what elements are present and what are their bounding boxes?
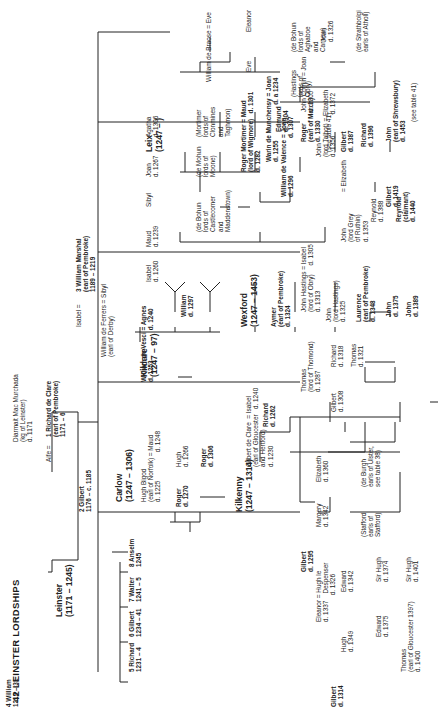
region-wexford: Wexford (1247 – 1453)	[240, 274, 259, 327]
person-hugh-bigod: Hugh Bigod (earl of Norfolk) = Maud d. 1…	[140, 431, 162, 502]
note-de-mohun: (de Mohun lords of Moone)	[195, 146, 217, 177]
person-elizabeth-1360: Elizabeth d. 1360	[315, 456, 329, 482]
person-william-1297: William d. 1297	[180, 295, 194, 317]
person-gilbert-1295: Gilbert d. 1295	[300, 550, 314, 572]
person-john-1375: John d. 1375	[385, 295, 399, 317]
person-laurence: Laurence (earl of Pembroke) d. 1348	[355, 266, 377, 322]
person-aymer: Aymer (earl of Pembroke) d. 1324	[270, 271, 292, 327]
person-john-talbot: John (lord Talbot) = Elizabeth d. 1356 d…	[315, 90, 337, 157]
person-eleanor: Eleanor = Hugh le d. 1337 Despenser d. 1…	[315, 563, 337, 622]
person-sibyl: Sibyl	[145, 193, 152, 207]
person-william-4: 4 William 1219 – 31	[5, 679, 19, 707]
person-hugh-1266: Hugh d. 1266	[175, 446, 189, 467]
person-diarmait: Diarmait Mac Murchada (kg of Leinster) d…	[12, 374, 34, 442]
person-roger-1306: Roger d. 1306	[200, 445, 214, 467]
person-gilbert-1419: Gilbert d. 1419	[385, 185, 399, 207]
person-richard-1262: Richard d. 1262	[262, 403, 276, 427]
person-warin-de-munchensy: Warin de Munchensy = Joan d. 1255 d. a 1…	[265, 76, 279, 162]
person-john-1453: John (earl of Shrewsbury) d. 1453	[385, 80, 407, 142]
person-agatha-1306: Agatha d. 1306	[145, 116, 159, 137]
note-strathbolgi: (de Strathbolgi earls of Atholl)	[355, 10, 369, 52]
person-isabel: Isabel =	[75, 304, 82, 327]
person-gilbert-1387: Gilbert d. 1387	[340, 130, 354, 152]
person-walter-7: 7 Walter 1241 – 5	[128, 577, 142, 602]
genealogy-diagram: 42 LEINSTER LORDSHIPS Leinster (1171 – 1…	[0, 0, 438, 712]
person-gilbert-1314: Gilbert d. 1314	[330, 685, 344, 707]
person-john-grey: John (lord Grey of Ruthin) d. 1353	[340, 214, 369, 242]
person-joan-1326: Joan d. 1326	[320, 21, 334, 42]
person-anselm-8: 8 Anselm 1245	[128, 539, 142, 567]
person-sir-hugh-1374: Sir Hugh d. 1374	[375, 557, 389, 582]
person-william-braose: William de Braose = Eve	[205, 12, 212, 82]
person-richard-5: 5 Richard 1231 – 4	[128, 643, 142, 672]
note-de-burgh: (de Burgh earls of Ulster, see table 38)	[360, 446, 382, 487]
person-thomas-1321: Thomas d. 1321	[350, 344, 364, 367]
person-eve: Eve	[245, 61, 252, 72]
region-carlow: Carlow (1247 – 1306)	[115, 449, 134, 502]
person-hugh-1349: Hugh d. 1349	[340, 631, 354, 652]
person-aife: Aife =	[45, 445, 52, 462]
person-roger-mortimer: Roger Mortimer = Maud (lord of Wigmore) …	[240, 92, 262, 172]
person-margery: Margery d. 1342	[315, 504, 329, 527]
person-john-1325: John (lord Hastings) d. 1325	[325, 280, 347, 322]
note-stafford: (Stafford earls of Stafford)	[360, 513, 382, 537]
region-leinster: Leinster (1171 – 1245)	[55, 565, 74, 617]
person-gilbert-6: 6 Gilbert 1234 – 41	[128, 609, 142, 637]
person-edward-1375: Edward d. 1375	[375, 615, 389, 637]
person-william-vesci: William de Vesci = Agnes d. 1253 d. 1240	[140, 306, 154, 382]
note-de-bohun-castlecomer: (de Bohun lords of Castlecomer and Madde…	[195, 190, 231, 232]
person-richard-1396: Richard d. 1396	[360, 123, 374, 147]
person-elizabeth-grey: = Elizabeth	[340, 160, 347, 192]
person-eleanor-braose: Eleanor	[245, 10, 252, 32]
person-gilbert-2: 2 Gilbert 1176 – c. 1185	[78, 470, 92, 512]
person-reynold-1388: Reynold d. 1388	[370, 199, 384, 222]
person-william-ferrers: William de Ferrers = Sibyl (earl of Derb…	[100, 284, 114, 357]
person-isabel-1260: Isabel d. 1260	[145, 261, 159, 282]
person-sir-hugh-1401: Sir Hugh d. 1401	[405, 557, 419, 582]
person-joan-1267: Joan d. 1267	[145, 156, 159, 177]
person-john-hastings: John Hastings = Isabel (lord of Obry) d.…	[300, 244, 322, 312]
note-mortimer-lords: (Mortimer lords of Clonmines and Taghmon…	[195, 107, 231, 137]
person-edward-1342: Edward d. 1342	[340, 570, 354, 592]
person-gilbert-1308: Gilbert d. 1308	[330, 391, 344, 412]
person-richard-de-clare: 1 Richard de Clare (earl of Pembroke) 11…	[45, 381, 67, 437]
person-roger-1270: Roger d. 1270	[175, 485, 189, 507]
person-thomas-1287: Thomas (lord of Thomond) d. 1287	[300, 341, 322, 392]
region-kilkenny: Kilkenny (1247 – 1314)	[235, 459, 254, 512]
person-richard-1318: Richard d. 1318	[330, 345, 344, 367]
note-see-table-41-b: (see table 41)	[410, 83, 417, 122]
person-john-1389: John d. 1389	[405, 295, 419, 317]
person-thomas-1400: Thomas (earl of Gloucester 1397) d. 1400	[400, 601, 422, 672]
person-john-comin: John Comin = Joan d. 1305	[300, 57, 314, 112]
person-william-marshal: 3 William Marshal (earl of Pembroke) 118…	[75, 236, 97, 292]
person-william-de-valence: William de Valence = Joan d. 1296 d. 130…	[280, 116, 294, 197]
person-gilbert-de-clare: Gilbert de Clare = Isabel (earl of Glouc…	[245, 388, 274, 467]
person-maud-1239: Maud d. 1239	[145, 226, 159, 247]
